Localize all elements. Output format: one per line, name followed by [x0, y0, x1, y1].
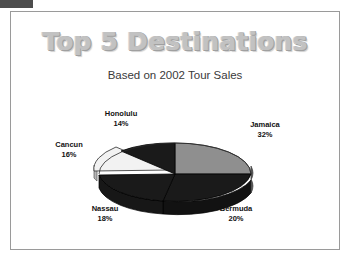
- pie-label-cancun: Cancun 16%: [39, 140, 99, 160]
- pie-chart-graphic: [11, 87, 339, 249]
- slide-title: Top 5 Destinations: [11, 27, 339, 56]
- pie-label-bermuda-pct: 20%: [201, 214, 271, 224]
- pie-label-jamaica-pct: 32%: [233, 130, 297, 140]
- pie-label-cancun-name: Cancun: [55, 140, 83, 149]
- pie-label-honolulu: Honolulu 14%: [89, 109, 153, 129]
- pie-label-bermuda: Bermuda 20%: [201, 204, 271, 224]
- pie-label-jamaica: Jamaica 32%: [233, 120, 297, 140]
- pie-label-nassau-name: Nassau: [92, 204, 119, 213]
- pie-slice-jamaica[interactable]: [175, 143, 251, 174]
- presentation-slide: Top 5 Destinations Based on 2002 Tour Sa…: [10, 11, 340, 250]
- pie-label-cancun-pct: 16%: [39, 150, 99, 160]
- pie-label-bermuda-name: Bermuda: [220, 204, 253, 213]
- pie-chart: Honolulu 14% Jamaica 32% Cancun 16% Nass…: [11, 87, 339, 249]
- pie-label-honolulu-pct: 14%: [89, 119, 153, 129]
- scan-edge-bar: [0, 0, 33, 8]
- pie-label-nassau: Nassau 18%: [73, 204, 137, 224]
- slide-subtitle: Based on 2002 Tour Sales: [11, 69, 339, 81]
- pie-label-jamaica-name: Jamaica: [250, 120, 280, 129]
- pie-wall-jamaica: [251, 166, 253, 193]
- pie-label-nassau-pct: 18%: [73, 214, 137, 224]
- pie-label-honolulu-name: Honolulu: [105, 109, 138, 118]
